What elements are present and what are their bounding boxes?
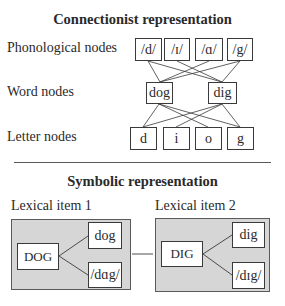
section-divider xyxy=(14,162,271,163)
lexical-item-1-orthography: dog xyxy=(88,222,122,249)
symbolic-title: Symbolic representation xyxy=(0,173,285,190)
phonological-node-a: /ɑ/ xyxy=(195,38,223,61)
letter-node-i: i xyxy=(163,127,190,150)
lexical-item-1-concept: DOG xyxy=(17,243,59,270)
lexical-item-1-phonology: /dɑg/ xyxy=(88,262,122,288)
lexical-item-2-phonology: /dɪg/ xyxy=(232,262,265,289)
letter-nodes-label: Letter nodes xyxy=(7,129,77,145)
letter-node-d: d xyxy=(130,127,157,150)
word-node-dog: dog xyxy=(146,82,173,104)
lexical-item-1-label: Lexical item 1 xyxy=(11,198,92,214)
phonological-node-d: /d/ xyxy=(135,38,162,61)
lexical-item-2-orthography: dig xyxy=(232,222,265,248)
lexical-item-2-concept: DIG xyxy=(161,241,203,267)
letter-node-g: g xyxy=(227,127,254,150)
word-nodes-label: Word nodes xyxy=(7,84,74,100)
phonological-node-i: /ɪ/ xyxy=(164,38,190,61)
letter-node-o: o xyxy=(195,127,222,150)
lexical-item-2-label: Lexical item 2 xyxy=(155,198,236,214)
phonological-nodes-label: Phonological nodes xyxy=(7,40,117,56)
phonological-node-g: /g/ xyxy=(227,38,253,61)
word-node-dig: dig xyxy=(208,82,237,104)
connectionist-title: Connectionist representation xyxy=(0,11,285,28)
